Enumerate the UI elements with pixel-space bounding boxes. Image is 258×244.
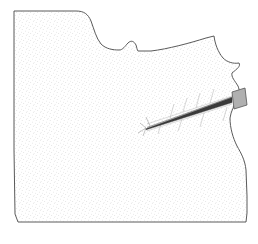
figure-root	[0, 0, 258, 244]
artifact-head	[232, 88, 247, 109]
matrix-body-outline	[14, 11, 247, 222]
technical-drawing-canvas	[0, 0, 258, 244]
